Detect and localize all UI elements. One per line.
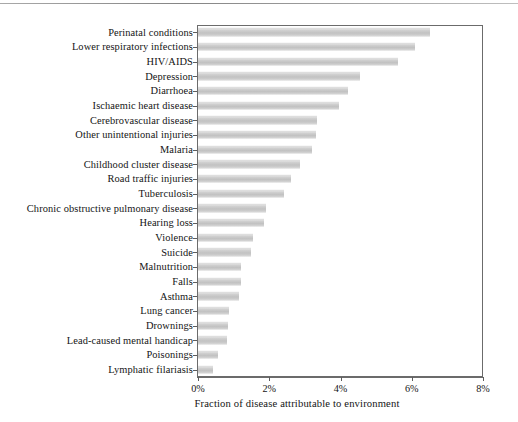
- bar: [198, 292, 239, 300]
- x-axis-title-text: Fraction of disease attributable to envi…: [194, 398, 399, 409]
- x-axis-tick: [341, 377, 342, 381]
- y-axis-tick: [193, 252, 197, 253]
- category-label: Ischaemic heart disease: [93, 100, 193, 111]
- bar: [198, 219, 264, 227]
- bar-row: Tuberculosis: [0, 186, 518, 201]
- x-axis-tick-label: 0%: [191, 383, 205, 395]
- bar: [198, 204, 266, 212]
- category-label: Lung cancer: [140, 305, 193, 316]
- bar-row: Poisonings: [0, 348, 518, 363]
- bar-rows-container: Perinatal conditionsLower respiratory in…: [0, 25, 518, 377]
- bar: [198, 336, 227, 344]
- bar: [198, 233, 253, 241]
- y-axis-tick: [193, 355, 197, 356]
- y-axis-tick: [193, 223, 197, 224]
- bar-row: Lung cancer: [0, 304, 518, 319]
- bar: [198, 72, 360, 80]
- bar-chart-figure: Perinatal conditionsLower respiratory in…: [0, 0, 518, 422]
- category-label: Cerebrovascular disease: [90, 115, 193, 126]
- y-axis-tick: [193, 150, 197, 151]
- category-label: Drownings: [146, 320, 193, 331]
- x-axis-tick-label: 6%: [405, 383, 419, 395]
- bar-row: Lower respiratory infections: [0, 40, 518, 55]
- y-axis-tick: [193, 282, 197, 283]
- y-axis-tick: [193, 164, 197, 165]
- category-label: Malnutrition: [139, 261, 193, 272]
- bar: [198, 145, 312, 153]
- bar: [198, 175, 291, 183]
- bar: [198, 248, 251, 256]
- bar-row: Perinatal conditions: [0, 25, 518, 40]
- bar-row: Depression: [0, 69, 518, 84]
- bar-row: Hearing loss: [0, 216, 518, 231]
- bar-row: Road traffic injuries: [0, 172, 518, 187]
- bar-row: Lymphatic filariasis: [0, 362, 518, 377]
- bar-row: Falls: [0, 274, 518, 289]
- x-axis-tick-label: 8%: [476, 383, 490, 395]
- bar: [198, 116, 317, 124]
- y-axis-tick: [193, 340, 197, 341]
- bar: [198, 307, 229, 315]
- bar: [198, 160, 300, 168]
- category-label: Diarrhoea: [151, 85, 193, 96]
- y-axis-tick: [193, 120, 197, 121]
- category-label: Other unintentional injuries: [75, 129, 193, 140]
- x-axis-tick-label: 2%: [262, 383, 276, 395]
- category-label: Depression: [145, 71, 193, 82]
- bar: [198, 277, 241, 285]
- bar-row: Other unintentional injuries: [0, 128, 518, 143]
- y-axis-tick: [193, 267, 197, 268]
- category-label: Lymphatic filariasis: [108, 364, 193, 375]
- bar: [198, 321, 228, 329]
- bar-row: Asthma: [0, 289, 518, 304]
- category-label: Perinatal conditions: [108, 27, 193, 38]
- bar-row: Malaria: [0, 142, 518, 157]
- category-label: Suicide: [161, 247, 193, 258]
- x-axis-tick-label: 4%: [334, 383, 348, 395]
- category-label: Lower respiratory infections: [72, 41, 193, 52]
- x-axis-title: Fraction of disease attributable to envi…: [0, 398, 518, 409]
- bar-row: Suicide: [0, 245, 518, 260]
- bar: [198, 101, 339, 109]
- bar: [198, 87, 348, 95]
- category-label: Childhood cluster disease: [84, 159, 193, 170]
- bar-row: Ischaemic heart disease: [0, 98, 518, 113]
- y-axis-tick: [193, 106, 197, 107]
- category-label: HIV/AIDS: [147, 56, 193, 67]
- y-axis-tick: [193, 194, 197, 195]
- bar-row: Childhood cluster disease: [0, 157, 518, 172]
- bar-row: Diarrhoea: [0, 84, 518, 99]
- bar-row: HIV/AIDS: [0, 54, 518, 69]
- category-label: Poisonings: [146, 349, 193, 360]
- bar-row: Chronic obstructive pulmonary disease: [0, 201, 518, 216]
- category-label: Malaria: [160, 144, 193, 155]
- y-axis-tick: [193, 208, 197, 209]
- bar-row: Drownings: [0, 318, 518, 333]
- bar-row: Lead-caused mental handicap: [0, 333, 518, 348]
- y-axis-tick: [193, 32, 197, 33]
- category-label: Falls: [172, 276, 193, 287]
- y-axis-tick: [193, 76, 197, 77]
- bar: [198, 131, 316, 139]
- category-label: Chronic obstructive pulmonary disease: [27, 203, 193, 214]
- bar-row: Malnutrition: [0, 260, 518, 275]
- y-axis-tick: [193, 238, 197, 239]
- y-axis-tick: [193, 326, 197, 327]
- y-axis-tick: [193, 62, 197, 63]
- bar: [198, 57, 398, 65]
- x-axis-tick: [198, 377, 199, 381]
- bar-row: Violence: [0, 230, 518, 245]
- bar-row: Cerebrovascular disease: [0, 113, 518, 128]
- bar: [198, 351, 218, 359]
- y-axis-tick: [193, 179, 197, 180]
- x-axis-tick: [412, 377, 413, 381]
- bar: [198, 43, 415, 51]
- y-axis-tick: [193, 91, 197, 92]
- x-axis-tick: [483, 377, 484, 381]
- y-axis-tick: [193, 311, 197, 312]
- y-axis-tick: [193, 47, 197, 48]
- category-label: Tuberculosis: [138, 188, 193, 199]
- bar: [198, 189, 284, 197]
- category-label: Hearing loss: [140, 217, 193, 228]
- x-axis-tick: [269, 377, 270, 381]
